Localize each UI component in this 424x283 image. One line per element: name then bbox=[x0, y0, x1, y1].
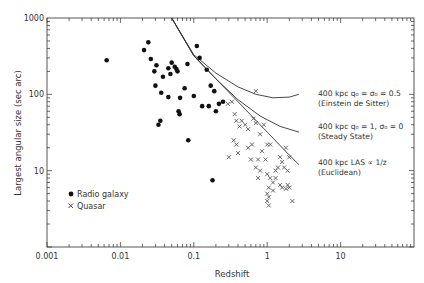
quasar-point bbox=[250, 143, 254, 147]
quasar-point bbox=[246, 146, 250, 150]
quasar-point bbox=[268, 176, 272, 180]
radio-galaxy-point bbox=[142, 48, 147, 53]
radio-galaxy-point bbox=[206, 104, 211, 109]
x-tick-label: 10 bbox=[336, 252, 346, 261]
quasar-point bbox=[249, 158, 253, 162]
quasar-point bbox=[267, 186, 271, 190]
quasar-point bbox=[238, 124, 242, 128]
radio-galaxy-point bbox=[212, 89, 217, 94]
quasar-point bbox=[258, 132, 262, 136]
radio-galaxy-point bbox=[159, 90, 164, 95]
radio-galaxy-point bbox=[186, 138, 191, 143]
quasar-point bbox=[254, 89, 258, 93]
y-tick-label: 100 bbox=[29, 90, 44, 99]
data-points bbox=[104, 40, 294, 207]
legend-radio-galaxy: Radio galaxy bbox=[77, 190, 129, 199]
quasar-point bbox=[267, 203, 271, 207]
radio-galaxy-point bbox=[153, 83, 158, 88]
quasar-point bbox=[258, 169, 262, 173]
curve-labels: 400 kpc q₀ = σ₀ = 0.5 (Einstein de Sitte… bbox=[318, 89, 403, 177]
curve-label-steady-state-name: (Steady State) bbox=[318, 132, 373, 141]
quasar-point bbox=[254, 121, 258, 125]
quasar-point bbox=[284, 187, 288, 191]
radio-galaxy-point bbox=[210, 178, 215, 183]
radio-galaxy-point bbox=[204, 67, 209, 72]
quasar-point bbox=[230, 100, 234, 104]
radio-galaxy-point bbox=[146, 40, 151, 45]
quasar-point bbox=[234, 143, 238, 147]
radio-galaxy-point bbox=[169, 60, 174, 65]
radio-galaxy-point bbox=[156, 122, 161, 127]
y-axis-label: Largest angular size (sec arc) bbox=[13, 70, 23, 196]
quasar-point bbox=[271, 188, 275, 192]
quasar-point bbox=[265, 199, 269, 203]
radio-galaxy-point bbox=[214, 109, 219, 114]
quasar-point bbox=[256, 176, 260, 180]
x-tick-label: 0.1 bbox=[187, 252, 200, 261]
curve-label-einstein-de-sitter: 400 kpc q₀ = σ₀ = 0.5 bbox=[318, 89, 401, 98]
quasar-point bbox=[280, 186, 284, 190]
quasar-point bbox=[233, 112, 237, 116]
quasar-point bbox=[274, 169, 278, 173]
angular-size-redshift-chart: 0.0010.010.1110100010010 Redshift Larges… bbox=[0, 0, 424, 283]
quasar-point bbox=[278, 183, 282, 187]
quasar-point bbox=[234, 119, 238, 123]
quasar-point bbox=[271, 180, 275, 184]
x-tick-label: 0.001 bbox=[36, 252, 59, 261]
x-tick-label: 0.01 bbox=[111, 252, 129, 261]
radio-galaxy-point bbox=[175, 69, 180, 74]
quasar-point bbox=[278, 155, 282, 159]
quasar-point bbox=[227, 155, 231, 159]
quasar-marker-icon bbox=[69, 204, 74, 209]
quasar-point bbox=[260, 149, 264, 153]
quasar-point bbox=[284, 146, 288, 150]
quasar-point bbox=[236, 151, 240, 155]
radio-galaxy-point bbox=[185, 62, 190, 67]
radio-galaxy-point bbox=[217, 102, 222, 107]
radio-galaxy-point bbox=[154, 63, 159, 68]
quasar-point bbox=[246, 127, 250, 131]
quasar-point bbox=[264, 158, 268, 162]
model-curves bbox=[172, 18, 299, 165]
quasar-point bbox=[274, 176, 278, 180]
radio-galaxy-point bbox=[200, 104, 205, 109]
quasar-point bbox=[268, 143, 272, 147]
x-tick-label: 1 bbox=[265, 252, 270, 261]
radio-galaxy-point bbox=[177, 112, 182, 117]
curve-label-euclidean-name: (Euclidean) bbox=[318, 168, 361, 177]
y-tick-label: 1000 bbox=[24, 14, 44, 23]
quasar-point bbox=[276, 166, 280, 170]
curve-label-steady-state: 400 kpc q₀ = 1, σ₀ = 0 bbox=[318, 122, 403, 131]
quasar-point bbox=[265, 172, 269, 176]
quasar-point bbox=[290, 199, 294, 203]
quasar-point bbox=[232, 138, 236, 142]
x-axis-label: Redshift bbox=[215, 269, 250, 279]
curve-euclidean bbox=[172, 18, 299, 165]
quasar-point bbox=[256, 158, 260, 162]
quasar-point bbox=[280, 160, 284, 164]
quasar-point bbox=[240, 119, 244, 123]
curve-label-einstein-de-sitter-name: (Einstein de Sitter) bbox=[318, 99, 389, 108]
radio-galaxy-marker-icon bbox=[69, 192, 74, 197]
tick-labels: 0.0010.010.1110100010010 bbox=[24, 14, 346, 261]
radio-galaxy-point bbox=[149, 57, 154, 62]
radio-galaxy-point bbox=[197, 56, 202, 61]
radio-galaxy-point bbox=[104, 58, 109, 63]
curve-einstein-de-sitter bbox=[172, 18, 299, 98]
quasar-point bbox=[243, 123, 247, 127]
radio-galaxy-point bbox=[161, 74, 166, 79]
radio-galaxy-point bbox=[208, 83, 213, 88]
legend-quasar: Quasar bbox=[77, 202, 106, 211]
quasar-point bbox=[286, 169, 290, 173]
radio-galaxy-point bbox=[182, 86, 187, 91]
quasar-point bbox=[262, 123, 266, 127]
radio-galaxy-point bbox=[192, 94, 197, 99]
radio-galaxy-point bbox=[166, 95, 171, 100]
radio-galaxy-point bbox=[195, 44, 200, 49]
radio-galaxy-point bbox=[152, 69, 157, 74]
radio-galaxy-point bbox=[158, 119, 163, 124]
quasar-point bbox=[254, 166, 258, 170]
legend: Radio galaxy Quasar bbox=[69, 190, 129, 211]
quasar-point bbox=[287, 155, 291, 159]
radio-galaxy-point bbox=[178, 96, 183, 101]
